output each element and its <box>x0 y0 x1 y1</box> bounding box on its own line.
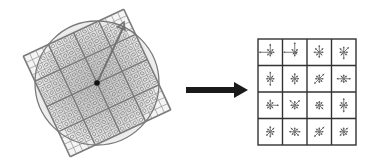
descriptor-histogram-grid <box>258 39 356 145</box>
rotated-sample-grid <box>15 1 180 161</box>
histogram-cell <box>340 128 348 136</box>
keypoint-dot <box>94 80 100 86</box>
histogram-cell <box>315 101 323 109</box>
transition-arrow-icon <box>186 82 248 98</box>
descriptor-diagram: Keypoint descriptor: rotated gradient sa… <box>0 0 376 161</box>
